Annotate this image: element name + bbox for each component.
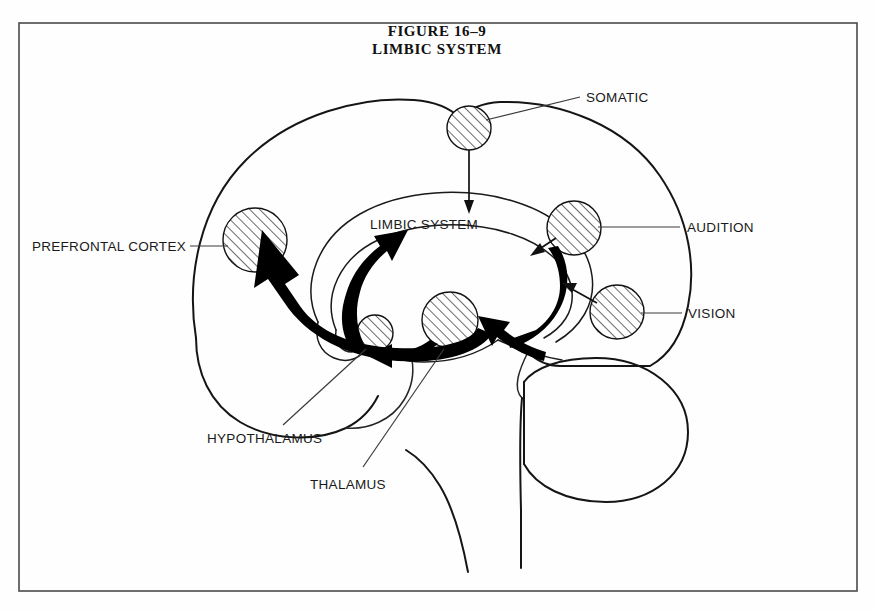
label-thalamus: THALAMUS bbox=[310, 477, 386, 492]
label-hypothalamus: HYPOTHALAMUS bbox=[207, 431, 322, 446]
temporal-lobe-outline bbox=[196, 338, 378, 438]
somatic-circle[interactable] bbox=[447, 106, 491, 150]
vision-circle[interactable] bbox=[590, 285, 644, 339]
label-somatic: SOMATIC bbox=[586, 90, 649, 105]
label-vision: VISION bbox=[688, 306, 736, 321]
leader-thalamus bbox=[363, 349, 444, 467]
limbic-system-diagram: FIGURE 16–9 LIMBIC SYSTEM bbox=[0, 0, 874, 610]
cerebellum-group bbox=[524, 358, 688, 502]
bold-pathway-arrows bbox=[254, 230, 567, 368]
label-prefrontal-cortex: PREFRONTAL CORTEX bbox=[32, 239, 186, 254]
midbrain-notch bbox=[517, 352, 528, 398]
brainstem-anterior-line bbox=[520, 398, 522, 568]
brainstem-group bbox=[406, 398, 522, 572]
temporal-inner-fold bbox=[346, 360, 413, 428]
leader-hypothalamus bbox=[283, 349, 366, 425]
label-limbic-system-inner: LIMBIC SYSTEM bbox=[370, 217, 478, 232]
posterior-limbic-curved-arrow bbox=[508, 246, 567, 348]
figure-title-line2: LIMBIC SYSTEM bbox=[372, 41, 502, 57]
figure-title-line1: FIGURE 16–9 bbox=[388, 23, 487, 39]
somatic-input-arrow-head bbox=[464, 200, 474, 214]
label-audition: AUDITION bbox=[687, 220, 754, 235]
leader-somatic bbox=[486, 97, 580, 120]
cerebellum-outline bbox=[524, 358, 688, 502]
brainstem-posterior-line bbox=[406, 450, 468, 572]
figure-canvas: FIGURE 16–9 LIMBIC SYSTEM bbox=[0, 0, 874, 610]
label-leader-lines bbox=[190, 97, 682, 467]
